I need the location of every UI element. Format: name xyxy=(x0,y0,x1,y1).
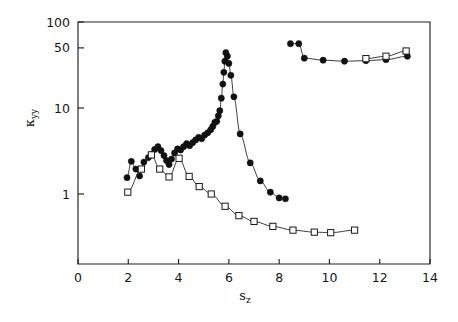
data-point-open-square xyxy=(236,213,242,219)
data-point-open-square xyxy=(196,183,202,189)
data-point-filled-circle xyxy=(224,53,230,59)
data-point-open-square xyxy=(290,227,296,233)
data-series xyxy=(124,50,289,202)
y-tick-label: 100 xyxy=(46,15,70,30)
data-point-filled-circle xyxy=(231,94,237,100)
data-point-open-square xyxy=(328,230,334,236)
data-point-open-square xyxy=(311,229,317,235)
data-point-open-square xyxy=(363,56,369,62)
x-tick-label: 0 xyxy=(74,270,82,285)
x-axis-ticks xyxy=(78,259,430,264)
data-point-filled-circle xyxy=(320,57,326,63)
data-point-filled-circle xyxy=(267,189,273,195)
data-point-filled-circle xyxy=(237,131,243,137)
svg-text:κyy: κyy xyxy=(22,108,39,127)
data-series-group xyxy=(124,41,411,236)
series-line xyxy=(290,44,407,62)
y-tick-label: 1 xyxy=(62,187,70,202)
x-axis-label: sz xyxy=(239,288,251,305)
data-point-open-square xyxy=(166,174,172,180)
data-point-open-square xyxy=(125,189,131,195)
data-point-open-square xyxy=(251,218,257,224)
series-line xyxy=(127,53,285,199)
data-point-filled-circle xyxy=(221,69,227,75)
data-point-filled-circle xyxy=(226,60,232,66)
data-point-filled-circle xyxy=(128,158,134,164)
data-point-open-square xyxy=(138,166,144,172)
data-point-filled-circle xyxy=(168,156,174,162)
data-point-open-square xyxy=(157,166,163,172)
data-point-open-square xyxy=(148,152,154,158)
data-point-filled-circle xyxy=(220,81,226,87)
data-point-open-square xyxy=(176,155,182,161)
y-axis-ticks xyxy=(78,22,84,194)
data-point-filled-circle xyxy=(217,108,223,114)
data-point-filled-circle xyxy=(166,161,172,167)
data-point-open-square xyxy=(186,173,192,179)
data-point-filled-circle xyxy=(296,41,302,47)
svg-text:sz: sz xyxy=(239,288,251,305)
data-point-filled-circle xyxy=(287,41,293,47)
data-point-filled-circle xyxy=(301,55,307,61)
chart-plot-area: 02468101214 11050100 sz κyy xyxy=(0,0,458,322)
data-series xyxy=(287,41,410,65)
y-tick-label: 10 xyxy=(54,101,70,116)
x-tick-label: 8 xyxy=(275,270,283,285)
data-point-open-square xyxy=(351,227,357,233)
data-point-filled-circle xyxy=(247,160,253,166)
chart-figure: 02468101214 11050100 sz κyy xyxy=(0,0,458,322)
data-point-filled-circle xyxy=(228,72,234,78)
y-axis-tick-labels: 11050100 xyxy=(46,15,70,202)
data-point-filled-circle xyxy=(341,58,347,64)
axis-frame xyxy=(78,22,430,264)
y-tick-label: 50 xyxy=(54,40,70,55)
data-point-filled-circle xyxy=(257,178,263,184)
x-tick-label: 12 xyxy=(372,270,388,285)
data-point-filled-circle xyxy=(218,95,224,101)
data-point-open-square xyxy=(208,191,214,197)
x-tick-label: 10 xyxy=(321,270,337,285)
data-point-filled-circle xyxy=(276,195,282,201)
data-point-open-square xyxy=(222,203,228,209)
data-point-filled-circle xyxy=(124,175,130,181)
data-point-open-square xyxy=(383,53,389,59)
data-point-filled-circle xyxy=(282,196,288,202)
y-axis-label: κyy xyxy=(22,108,39,127)
x-tick-label: 14 xyxy=(422,270,438,285)
x-tick-label: 4 xyxy=(175,270,183,285)
data-series xyxy=(125,152,358,236)
x-tick-label: 6 xyxy=(225,270,233,285)
data-series xyxy=(363,48,409,62)
data-point-open-square xyxy=(270,223,276,229)
x-tick-label: 2 xyxy=(124,270,132,285)
x-axis-tick-labels: 02468101214 xyxy=(74,270,438,285)
data-point-open-square xyxy=(403,48,409,54)
